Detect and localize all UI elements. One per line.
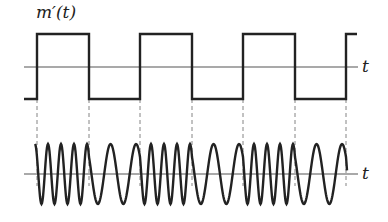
top-time-axis-label: t [362,56,369,76]
fm-signal-figure [0,0,388,222]
fm-diagram: m′(t) t t [0,0,388,222]
bottom-time-axis-label: t [362,163,369,183]
message-signal-label: m′(t) [36,2,76,22]
